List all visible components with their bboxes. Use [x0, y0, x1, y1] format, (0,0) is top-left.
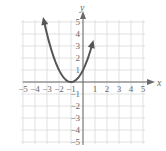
x-tick-label: −2 — [54, 84, 64, 94]
curve-right-arrow-icon — [88, 40, 95, 49]
x-tick-label: 3 — [117, 84, 122, 94]
y-tick-label: −4 — [70, 125, 80, 135]
parabola-curve — [44, 22, 92, 82]
y-tick-label: −5 — [70, 137, 80, 147]
x-tick-labels: −5−4−3−2−112345 — [18, 84, 146, 94]
y-tick-label: −1 — [70, 89, 80, 99]
y-tick-label: 2 — [76, 53, 81, 63]
x-tick-label: −5 — [18, 84, 28, 94]
x-tick-label: 1 — [93, 84, 98, 94]
x-tick-label: −3 — [42, 84, 52, 94]
x-tick-label: −4 — [30, 84, 40, 94]
x-axis-label: x — [156, 77, 162, 88]
parabola-graph: x y −5−4−3−2−112345 54321−1−2−3−4−5 — [0, 0, 166, 151]
y-tick-label: −2 — [70, 101, 80, 111]
y-tick-label: −3 — [70, 113, 80, 123]
y-tick-label: 1 — [76, 65, 81, 75]
x-tick-label: 5 — [141, 84, 146, 94]
y-tick-label: 4 — [76, 29, 81, 39]
x-tick-label: 2 — [105, 84, 110, 94]
y-tick-label: 5 — [76, 17, 81, 27]
x-tick-label: 4 — [129, 84, 134, 94]
y-tick-label: 3 — [76, 41, 81, 51]
y-axis-label: y — [79, 2, 85, 13]
x-axis-arrow-icon — [147, 79, 155, 85]
